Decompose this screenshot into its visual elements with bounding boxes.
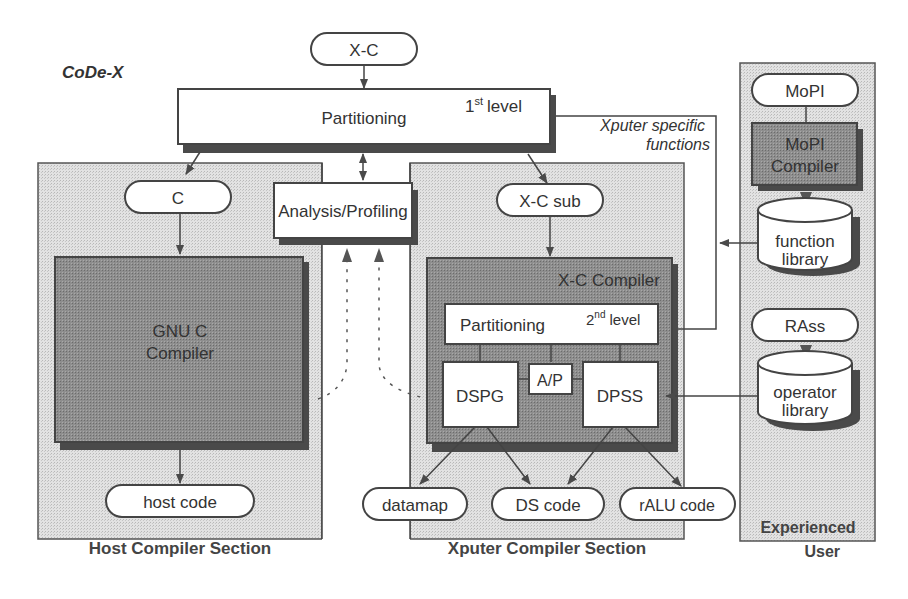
xputer-specific-annotation-line2: functions (646, 136, 710, 153)
rass-input-label: RAss (785, 317, 826, 336)
ralu-code-label: rALU code (639, 497, 715, 514)
codex-diagram: CoDe-X Host Compiler Section Xputer Comp… (0, 0, 908, 599)
function-library-label-line1: function (775, 232, 835, 251)
c-input-label: C (172, 189, 184, 208)
mopi-compiler-label-line2: Compiler (771, 157, 839, 176)
gnu-compiler-label-line2: Compiler (146, 344, 214, 363)
experienced-section-label-line2: User (804, 543, 840, 560)
partitioning-2-label: Partitioning (460, 316, 545, 335)
analysis-profiling-label: Analysis/Profiling (278, 202, 407, 221)
partitioning-2-level-num: 2 (586, 311, 594, 328)
function-library-label-line2: library (782, 250, 829, 269)
experienced-section-label-line1: Experienced (760, 519, 855, 536)
partitioning-1-level: 1stlevel (465, 95, 522, 116)
xc-compiler-label: X-C Compiler (558, 271, 660, 290)
mopi-input-label: MoPI (785, 82, 825, 101)
ds-code-label: DS code (515, 496, 580, 515)
partitioning-2-level-word: level (609, 311, 640, 328)
ap-label: A/P (537, 372, 563, 389)
xputer-specific-annotation-line1: Xputer specific (599, 117, 705, 134)
partitioning-1-label: Partitioning (321, 109, 406, 128)
datamap-label: datamap (382, 496, 448, 515)
xputer-section-label: Xputer Compiler Section (448, 539, 646, 558)
partitioning-2-level: 2ndlevel (586, 309, 640, 328)
xc-input-label: X-C (349, 41, 378, 60)
diagram-title: CoDe-X (62, 63, 125, 82)
partitioning-1-level-sup: st (474, 95, 483, 107)
mopi-compiler-label-line1: MoPI (785, 135, 825, 154)
xc-sub-label: X-C sub (519, 192, 580, 211)
partitioning-2-level-sup: nd (594, 309, 605, 320)
dpss-label: DPSS (597, 387, 643, 406)
partitioning-1-level-num: 1 (465, 97, 474, 116)
partitioning-1-level-word: level (487, 97, 522, 116)
operator-library-label-line1: operator (773, 383, 837, 402)
gnu-compiler-label-line1: GNU C (153, 322, 208, 341)
host-code-label: host code (143, 493, 217, 512)
operator-library-label-line2: library (782, 401, 829, 420)
host-section-label: Host Compiler Section (89, 539, 271, 558)
dspg-label: DSPG (456, 387, 504, 406)
